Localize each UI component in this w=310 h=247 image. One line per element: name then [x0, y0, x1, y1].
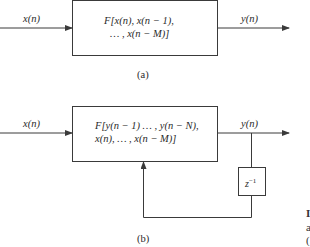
delay-label: z−1 — [245, 178, 256, 189]
feedback-path — [144, 162, 252, 218]
block-a-line2: … , x(n − M)] — [104, 27, 174, 40]
block-a-function: F[x(n), x(n − 1), … , x(n − M)] — [104, 14, 174, 40]
input-label-b: x(n) — [23, 119, 40, 130]
cropped-text-1: I — [306, 208, 310, 219]
block-b-function: F[y(n − 1) … , y(n − N), x(n), … , x(n −… — [95, 119, 199, 145]
block-b-line2: x(n), … , x(n − M)] — [95, 132, 199, 145]
caption-b: (b) — [137, 234, 149, 245]
block-b-line1: F[y(n − 1) … , y(n − N), — [95, 119, 199, 132]
cropped-text-3: ( — [306, 235, 310, 246]
caption-a: (a) — [137, 70, 149, 81]
output-label-b: y(n) — [241, 119, 258, 130]
input-label-a: x(n) — [23, 14, 40, 25]
cropped-text-2: a — [306, 222, 310, 233]
output-label-a: y(n) — [241, 14, 258, 25]
block-a-line1: F[x(n), x(n − 1), — [104, 14, 174, 27]
delay-exponent: −1 — [249, 177, 256, 185]
